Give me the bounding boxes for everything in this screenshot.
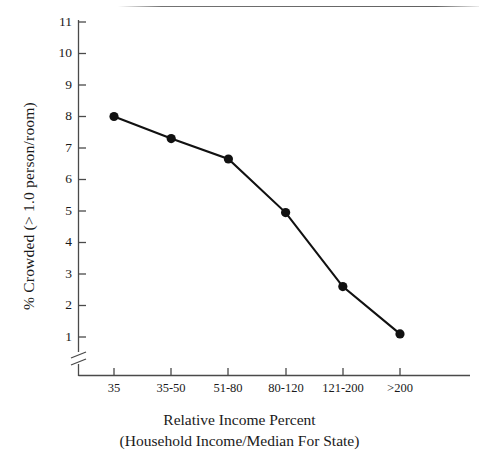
axis-break-icon xyxy=(71,352,86,365)
plot-area xyxy=(0,0,479,465)
data-markers xyxy=(109,112,404,339)
data-point-51-80 xyxy=(224,154,233,163)
data-point-121-200 xyxy=(338,282,347,291)
y-tick-marks xyxy=(79,22,87,337)
x-axis-title: Relative Income Percent (Household Incom… xyxy=(0,409,479,451)
x-tick-marks xyxy=(114,368,400,376)
data-point-35-50 xyxy=(167,134,176,143)
x-axis-title-sub: (Household Income/Median For State) xyxy=(0,430,479,451)
data-point-80-120 xyxy=(281,208,290,217)
x-axis-title-main: Relative Income Percent xyxy=(0,409,479,430)
data-line xyxy=(114,117,400,334)
data-point-35 xyxy=(109,112,118,121)
data-point->200 xyxy=(395,329,404,338)
figure: % Crowded (> 1.0 person/room) 11 10 9 8 … xyxy=(0,0,479,465)
